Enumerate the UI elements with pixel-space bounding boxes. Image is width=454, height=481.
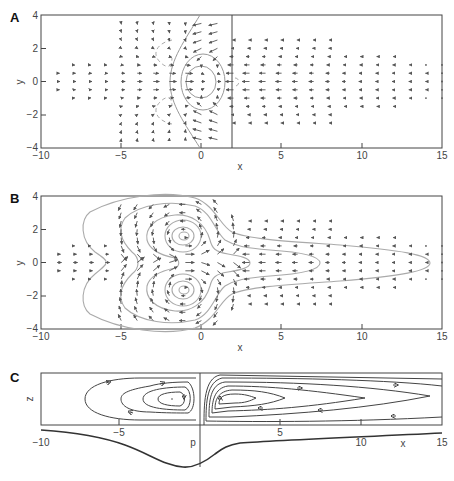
panel-a-x-tickmarks	[121, 143, 362, 148]
panel-a-streamline	[181, 54, 225, 110]
panel-a: A 420−2−4 y −10−5051015 x	[10, 10, 448, 172]
panel-a-vector-field	[57, 23, 443, 139]
svg-text:0: 0	[32, 76, 38, 87]
svg-text:4: 4	[32, 191, 38, 202]
svg-text:10: 10	[355, 437, 367, 448]
panel-c: C z −10−551015 x p	[10, 370, 448, 467]
svg-text:0: 0	[32, 257, 38, 268]
panel-c-xlabel: x	[401, 438, 406, 449]
svg-text:2: 2	[32, 43, 38, 54]
svg-text:5: 5	[277, 427, 283, 438]
panel-a-y-ticks: 420−2−4	[27, 10, 39, 153]
panel-a-letter: A	[10, 10, 20, 25]
panel-a-frame	[41, 15, 442, 148]
panel-b: B 420−2−4 y −10−5051015 x	[10, 191, 448, 353]
svg-text:0: 0	[198, 150, 204, 161]
panel-c-pressure-curve	[41, 430, 442, 467]
panel-b-xlabel: x	[238, 342, 243, 353]
panel-b-y-tickmarks	[41, 230, 46, 297]
panel-c-letter: C	[10, 370, 20, 385]
panel-a-y-tickmarks	[41, 49, 46, 116]
svg-text:−10: −10	[33, 437, 50, 448]
svg-text:15: 15	[436, 331, 448, 342]
panel-a-xlabel: x	[238, 161, 243, 172]
svg-text:−10: −10	[33, 331, 50, 342]
panel-a-dashed-lobe	[156, 40, 172, 66]
svg-text:10: 10	[356, 150, 368, 161]
panel-b-ylabel: y	[14, 261, 25, 266]
panel-c-right-cell	[204, 375, 442, 425]
panel-c-left-cell	[85, 378, 196, 420]
svg-text:−2: −2	[27, 290, 39, 301]
svg-text:−5: −5	[115, 150, 127, 161]
panel-a-dashed-lobe	[235, 78, 239, 86]
svg-text:2: 2	[32, 224, 38, 235]
figure: A 420−2−4 y −10−5051015 x B	[0, 0, 454, 481]
svg-text:5: 5	[278, 331, 284, 342]
svg-text:−5: −5	[115, 331, 127, 342]
panel-b-y-ticks: 420−2−4	[27, 191, 39, 334]
panel-a-ylabel: y	[14, 80, 25, 85]
svg-text:15: 15	[436, 150, 448, 161]
panel-b-x-ticks: −10−5051015	[33, 331, 448, 342]
panel-b-frame	[41, 196, 442, 329]
panel-b-streamlines	[83, 194, 430, 331]
svg-text:5: 5	[278, 150, 284, 161]
svg-text:−5: −5	[113, 427, 125, 438]
panel-a-streamline	[186, 66, 216, 98]
panel-b-letter: B	[10, 191, 19, 206]
panel-b-x-tickmarks	[121, 324, 362, 329]
svg-text:−10: −10	[33, 150, 50, 161]
panel-a-dashed-lobe	[156, 98, 172, 124]
svg-text:−2: −2	[27, 109, 39, 120]
panel-a-x-ticks: −10−5051015	[33, 150, 448, 161]
svg-text:4: 4	[32, 10, 38, 21]
svg-text:10: 10	[356, 331, 368, 342]
svg-text:0: 0	[198, 331, 204, 342]
panel-c-ylabel: z	[24, 397, 35, 402]
panel-c-curve-label: p	[190, 437, 196, 448]
svg-text:15: 15	[436, 437, 448, 448]
